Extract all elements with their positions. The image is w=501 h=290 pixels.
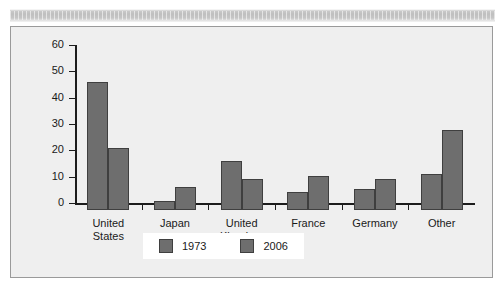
y-tick-label-30: 30 xyxy=(52,117,64,130)
chart-legend: 19732006 xyxy=(143,233,304,259)
y-tick-60: 60 xyxy=(69,45,75,46)
y-tick-0: 0 xyxy=(69,203,75,204)
x-tick-5 xyxy=(408,205,409,210)
legend-label-2006: 2006 xyxy=(263,240,287,253)
y-tick-label-0: 0 xyxy=(58,196,64,209)
y-tick-label-40: 40 xyxy=(52,91,64,104)
x-tick-2 xyxy=(208,205,209,210)
x-label-Japan: Japan xyxy=(142,217,209,230)
bar-2006-Germany xyxy=(375,179,396,210)
y-axis-line xyxy=(75,45,77,205)
x-label-United-States: United States xyxy=(75,217,142,243)
x-tick-1 xyxy=(142,205,143,210)
y-tick-20: 20 xyxy=(69,150,75,151)
legend-swatch-1973 xyxy=(159,239,173,253)
legend-item-2006: 2006 xyxy=(240,239,287,253)
bar-1973-United-Kingdom xyxy=(221,161,242,210)
bar-2006-Other xyxy=(442,130,463,210)
legend-swatch-2006 xyxy=(240,239,254,253)
y-tick-label-60: 60 xyxy=(52,38,64,51)
x-label-Other: Other xyxy=(408,217,475,230)
x-label-Germany: Germany xyxy=(342,217,409,230)
x-tick-4 xyxy=(342,205,343,210)
bar-2006-United-Kingdom xyxy=(242,179,263,210)
bar-2006-Japan xyxy=(175,187,196,210)
bar-1973-Germany xyxy=(354,189,375,210)
x-label-France: France xyxy=(275,217,342,230)
y-tick-40: 40 xyxy=(69,98,75,99)
bar-2006-France xyxy=(308,176,329,210)
top-band-texture xyxy=(10,11,495,20)
y-tick-label-20: 20 xyxy=(52,143,64,156)
screenshot-root: 0102030405060 United StatesJapanUnited K… xyxy=(0,0,501,290)
y-tick-50: 50 xyxy=(69,71,75,72)
y-tick-label-10: 10 xyxy=(52,170,64,183)
y-tick-30: 30 xyxy=(69,124,75,125)
plot-area: 0102030405060 United StatesJapanUnited K… xyxy=(75,45,475,212)
bar-2006-United-States xyxy=(108,148,129,210)
bar-1973-United-States xyxy=(87,82,108,210)
y-tick-label-50: 50 xyxy=(52,64,64,77)
legend-label-1973: 1973 xyxy=(182,240,206,253)
decorative-top-band xyxy=(10,9,495,22)
legend-item-1973: 1973 xyxy=(159,239,206,253)
y-tick-10: 10 xyxy=(69,177,75,178)
bar-1973-Other xyxy=(421,174,442,210)
chart-figure: 0102030405060 United StatesJapanUnited K… xyxy=(10,26,493,278)
bar-1973-Japan xyxy=(154,201,175,210)
bar-1973-France xyxy=(287,192,308,210)
x-tick-3 xyxy=(275,205,276,210)
